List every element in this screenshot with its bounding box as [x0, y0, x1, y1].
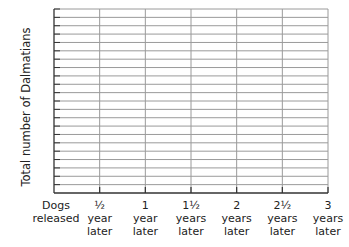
x-tick-label: 1½ — [182, 199, 200, 212]
x-tick-label: later — [224, 225, 250, 238]
x-tick-label: Dogs — [42, 199, 70, 212]
x-tick-label: later — [270, 225, 296, 238]
x-tick-label: later — [178, 225, 204, 238]
blank-graph-chart: Dogsreleased½yearlater1yearlater1½yearsl… — [0, 0, 349, 247]
x-tick-label: years — [222, 212, 253, 225]
x-tick-label: later — [133, 225, 159, 238]
x-tick-label: year — [133, 212, 158, 225]
x-tick-label: 3 — [325, 199, 332, 212]
x-tick-label: year — [87, 212, 112, 225]
x-tick-label: released — [32, 212, 79, 225]
y-axis-label: Total number of Dalmatians — [19, 27, 33, 187]
x-axis-tick-labels: Dogsreleased½yearlater1yearlater1½yearsl… — [32, 199, 343, 238]
x-tick-label: 2 — [233, 199, 240, 212]
x-tick-label: 2½ — [273, 199, 291, 212]
x-tick-label: later — [315, 225, 341, 238]
x-tick-label: ½ — [94, 199, 105, 212]
x-tick-label: years — [313, 212, 344, 225]
x-tick-label: years — [267, 212, 298, 225]
x-tick-label: years — [176, 212, 207, 225]
x-tick-label: later — [87, 225, 113, 238]
x-tick-label: 1 — [142, 199, 149, 212]
